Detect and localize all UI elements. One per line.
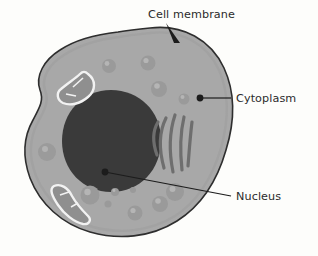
vesicle — [141, 56, 156, 71]
vesicle — [38, 143, 56, 161]
vesicle — [102, 59, 116, 73]
vesicle — [81, 186, 100, 205]
vesicle — [152, 196, 168, 212]
cell-diagram-canvas: Cell membrane Cytoplasm Nucleus — [0, 0, 318, 256]
nucleus-structure — [62, 90, 161, 192]
nucleus-shape — [62, 90, 161, 192]
vesicle — [151, 81, 167, 97]
vesicle — [105, 201, 112, 208]
label-cytoplasm: Cytoplasm — [236, 92, 296, 105]
vesicle — [111, 188, 119, 196]
nucleus-leader-dot — [102, 169, 109, 176]
vesicle — [130, 187, 136, 193]
label-cell-membrane: Cell membrane — [148, 8, 235, 21]
vesicle — [179, 94, 190, 105]
vesicle — [128, 206, 143, 221]
animal-cell-diagram: Cell membrane Cytoplasm Nucleus — [0, 0, 318, 256]
label-nucleus: Nucleus — [236, 190, 281, 203]
cytoplasm-leader-dot — [197, 95, 204, 102]
